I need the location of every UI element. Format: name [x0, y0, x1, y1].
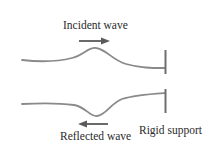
- left-arrow-icon: [78, 121, 108, 128]
- rigid-support-label: Rigid support: [139, 125, 202, 137]
- incident-wave-string: [22, 48, 165, 68]
- wave-reflection-diagram: Incident wave Reflected wave Rigid suppo…: [0, 0, 214, 159]
- reflected-wave-label: Reflected wave: [60, 131, 131, 143]
- reflected-wave-string: [22, 93, 165, 116]
- right-arrow-icon: [79, 38, 110, 45]
- incident-wave-label: Incident wave: [63, 20, 128, 32]
